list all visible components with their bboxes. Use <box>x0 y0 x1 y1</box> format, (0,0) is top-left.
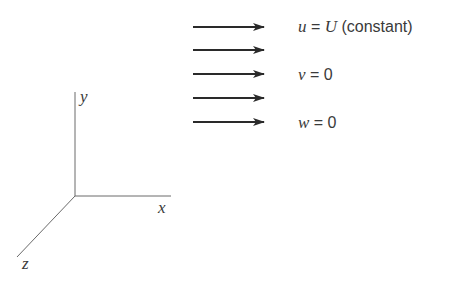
velocity-conditions: u = U (constant) v = 0 w = 0 <box>298 17 413 132</box>
condition-u: u = U (constant) <box>298 17 413 36</box>
condition-w: w = 0 <box>298 113 337 132</box>
z-axis <box>17 196 75 257</box>
coordinate-axes: y x z <box>17 87 171 273</box>
z-axis-label: z <box>21 254 29 273</box>
x-axis-label: x <box>157 198 166 217</box>
condition-v: v = 0 <box>298 65 333 84</box>
flow-arrows <box>193 27 264 122</box>
y-axis-label: y <box>78 87 88 106</box>
flow-diagram: u = U (constant) v = 0 w = 0 y x z <box>0 0 458 283</box>
